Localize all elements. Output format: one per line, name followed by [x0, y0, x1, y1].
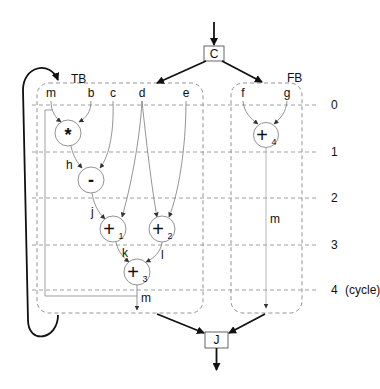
- tb-inputs: m b c d e: [46, 86, 190, 100]
- cycle-label-2: 2: [331, 191, 338, 205]
- node-mul: *: [55, 120, 81, 146]
- svg-text:*: *: [64, 125, 71, 145]
- cycle-labels: 0 1 2 3 4 (cycle): [331, 98, 380, 297]
- exit-block-label: J: [214, 333, 220, 347]
- node-sub: -: [78, 167, 104, 193]
- node-add3: + 3: [124, 259, 150, 285]
- svg-text:+: +: [103, 218, 115, 240]
- arrow-tb-to-j: [157, 314, 204, 333]
- svg-text:+: +: [152, 218, 164, 240]
- svg-text:4: 4: [271, 137, 276, 147]
- svg-text:-: -: [88, 170, 94, 190]
- svg-text:1: 1: [118, 231, 123, 241]
- edge-label-l: l: [161, 248, 164, 262]
- cycle-label-4: 4: [331, 283, 338, 297]
- arrow-c-to-fb: [222, 61, 262, 82]
- node-add1: + 1: [100, 216, 126, 242]
- cycle-label-0: 0: [331, 98, 338, 112]
- svg-text:2: 2: [167, 231, 172, 241]
- edge-label-m: m: [141, 291, 151, 305]
- input-g: g: [284, 86, 291, 100]
- edge-label-j: j: [90, 205, 94, 219]
- svg-text:+: +: [256, 124, 268, 146]
- svg-text:+: +: [127, 261, 139, 283]
- input-c: c: [110, 86, 116, 100]
- input-d: d: [139, 86, 146, 100]
- fb-edge-label-m: m: [270, 212, 280, 226]
- arrow-fb-to-j: [229, 314, 265, 333]
- edge-label-k: k: [122, 246, 129, 260]
- cycle-label-3: 3: [331, 238, 338, 252]
- input-b: b: [88, 86, 95, 100]
- node-add4: + 4: [254, 123, 279, 148]
- hyperblock-diagram: 0 1 2 3 4 (cycle) TB FB C m b c d e: [0, 0, 380, 389]
- input-m: m: [46, 86, 56, 100]
- edge-label-h: h: [66, 158, 73, 172]
- node-add2: + 2: [149, 216, 175, 242]
- svg-text:3: 3: [142, 274, 147, 284]
- false-block-label: FB: [287, 71, 302, 85]
- entry-block-label: C: [210, 47, 219, 61]
- arrow-c-to-tb: [157, 61, 206, 83]
- true-block-label: TB: [71, 72, 86, 86]
- input-e: e: [183, 86, 190, 100]
- cycle-suffix: (cycle): [345, 283, 380, 297]
- fb-inputs: f g: [241, 86, 290, 100]
- input-f: f: [241, 86, 245, 100]
- cycle-label-1: 1: [331, 145, 338, 159]
